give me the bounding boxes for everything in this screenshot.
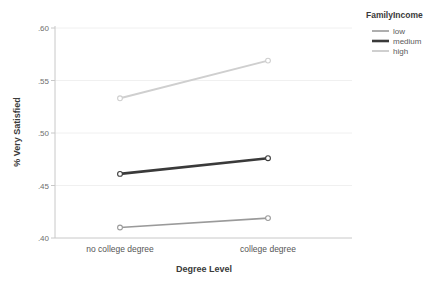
chart-canvas: .60 .55 .50 .45 .40 % Very Satisfied no … <box>0 0 432 283</box>
x-tick-label-no-college-degree: no college degree <box>86 244 154 254</box>
y-tick-label-45: .45 <box>38 182 50 191</box>
y-axis-title: % Very Satisfied <box>12 97 22 167</box>
y-tick-label-55: .55 <box>38 77 50 86</box>
data-point-marker <box>118 225 123 230</box>
y-tick-label-60: .60 <box>38 24 50 33</box>
legend-title: FamilyIncome <box>366 10 423 20</box>
chart-background <box>0 0 432 283</box>
data-point-marker <box>118 96 123 101</box>
data-point-marker <box>266 58 271 63</box>
line-chart: .60 .55 .50 .45 .40 % Very Satisfied no … <box>0 0 432 283</box>
y-tick-label-40: .40 <box>38 234 50 243</box>
x-axis-title: Degree Level <box>176 264 232 274</box>
data-point-marker <box>266 216 271 221</box>
legend-label-medium: medium <box>393 37 422 46</box>
data-point-marker <box>266 156 271 161</box>
legend-label-high: high <box>393 47 408 56</box>
x-tick-label-college-degree: college degree <box>240 244 296 254</box>
data-point-marker <box>118 172 123 177</box>
legend-label-low: low <box>393 27 405 36</box>
y-tick-label-50: .50 <box>38 129 50 138</box>
